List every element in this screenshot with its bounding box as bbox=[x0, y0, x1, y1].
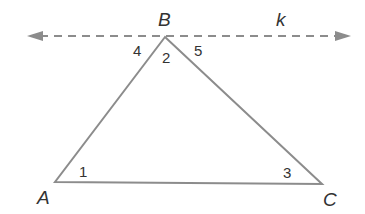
angle-label-2: 2 bbox=[162, 49, 170, 66]
angle-label-1: 1 bbox=[79, 163, 87, 180]
line-label-k: k bbox=[276, 9, 287, 30]
triangle-diagram: B k A C 4 2 5 1 3 bbox=[0, 0, 365, 214]
right-arrow-icon bbox=[335, 31, 351, 41]
left-arrow-icon bbox=[27, 31, 43, 41]
vertex-label-b: B bbox=[158, 9, 171, 30]
vertex-label-a: A bbox=[36, 187, 50, 208]
angle-label-3: 3 bbox=[283, 164, 291, 181]
triangle-abc bbox=[55, 37, 322, 184]
vertex-label-c: C bbox=[323, 189, 337, 210]
angle-label-4: 4 bbox=[133, 42, 141, 59]
line-k bbox=[27, 31, 351, 41]
angle-label-5: 5 bbox=[194, 42, 202, 59]
